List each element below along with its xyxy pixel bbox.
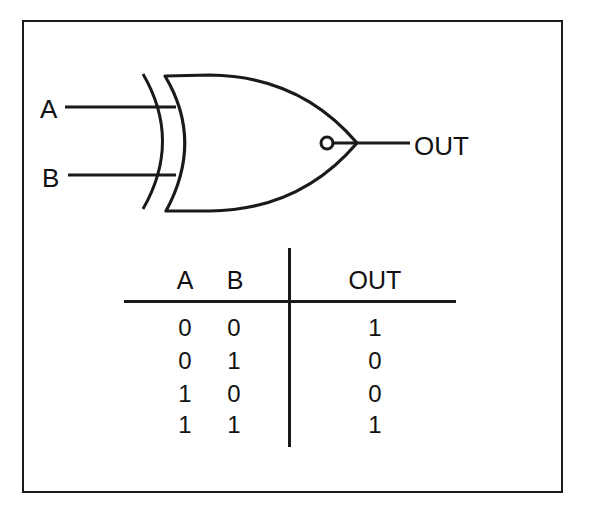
cell-out: 1 (360, 316, 390, 340)
header-b: B (220, 268, 250, 293)
output-label: OUT (414, 133, 469, 159)
cell-a: 0 (170, 316, 200, 340)
cell-b: 0 (219, 382, 249, 406)
table-column-divider (288, 248, 291, 447)
input-a-label: A (40, 96, 57, 122)
cell-b: 0 (219, 316, 249, 340)
header-out: OUT (335, 268, 415, 293)
cell-out: 0 (360, 382, 390, 406)
input-b-label: B (42, 165, 59, 191)
cell-a: 1 (170, 382, 200, 406)
cell-b: 1 (219, 413, 249, 437)
cell-a: 1 (170, 413, 200, 437)
cell-out: 1 (360, 413, 390, 437)
cell-b: 1 (219, 349, 249, 373)
header-a: A (170, 268, 200, 293)
inversion-bubble-icon (321, 137, 333, 149)
xor-input-curve (143, 74, 163, 209)
cell-out: 0 (360, 349, 390, 373)
xnor-gate-symbol (0, 0, 593, 505)
cell-a: 0 (170, 349, 200, 373)
